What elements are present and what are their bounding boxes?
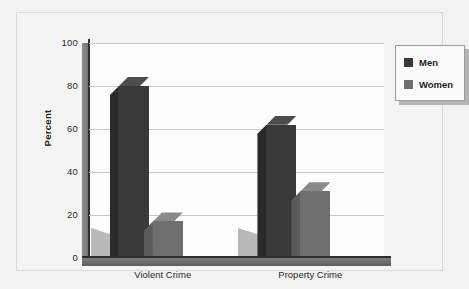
bar-front-face — [300, 191, 330, 258]
legend-swatch-icon — [404, 80, 413, 89]
y-axis-line — [88, 39, 90, 258]
legend-item-men[interactable]: Men — [404, 57, 438, 68]
x-axis-line — [82, 256, 391, 258]
x-axis-floor — [82, 258, 391, 266]
legend-item-women[interactable]: Women — [404, 79, 453, 90]
bar-side-face — [291, 191, 300, 258]
x-axis-tick-label: Property Crime — [237, 269, 385, 280]
legend-swatch-icon — [404, 58, 413, 67]
x-axis-tick-label: Violent Crime — [89, 269, 237, 280]
y-axis-tick-label: 100 — [32, 37, 78, 48]
y-axis-tick-label: 40 — [32, 166, 78, 177]
plot-area: 100806040200 Violent CrimeProperty Crime — [89, 43, 384, 258]
bar-side-face — [110, 86, 119, 258]
legend-label: Men — [419, 57, 438, 68]
chart-legend: MenWomen — [395, 45, 465, 101]
chart-panel: Percent 100806040200 Violent CrimeProper… — [16, 12, 443, 271]
y-axis-tick-label: 80 — [32, 80, 78, 91]
bar-women-property-crime — [300, 191, 330, 258]
y-axis-tick-label: 60 — [32, 123, 78, 134]
legend-label: Women — [419, 79, 453, 90]
bar-women-violent-crime — [153, 221, 183, 258]
y-axis-tick-label: 20 — [32, 209, 78, 220]
y-axis-tick-label: 0 — [32, 252, 78, 263]
bar-side-face — [257, 125, 266, 258]
bar-front-face — [153, 221, 183, 258]
gridline — [89, 43, 384, 44]
